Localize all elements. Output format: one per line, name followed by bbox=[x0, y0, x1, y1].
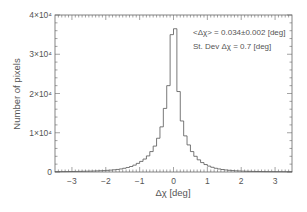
stdev-annotation: St. Dev Δχ = 0.7 [deg] bbox=[193, 42, 271, 51]
y-tick-label: 1×10⁴ bbox=[29, 128, 52, 138]
x-tick-label: −3 bbox=[67, 176, 77, 186]
y-tick-label: 3×10⁴ bbox=[29, 49, 52, 59]
x-tick-label: 0 bbox=[171, 176, 176, 186]
plot-frame bbox=[55, 15, 292, 172]
x-tick-label: 2 bbox=[239, 176, 244, 186]
y-tick-label: 2×10⁴ bbox=[29, 89, 52, 99]
histogram-chart: −3−2−10123 01×10⁴2×10⁴3×10⁴4×10⁴ Δχ [deg… bbox=[0, 0, 307, 212]
x-axis-title: Δχ [deg] bbox=[155, 187, 190, 198]
axis-ticks bbox=[55, 15, 292, 172]
x-tick-label: 3 bbox=[273, 176, 278, 186]
y-tick-label: 0 bbox=[47, 167, 52, 177]
x-tick-label: 1 bbox=[205, 176, 210, 186]
x-axis-tick-labels: −3−2−10123 bbox=[67, 176, 278, 186]
x-tick-label: −2 bbox=[101, 176, 111, 186]
y-axis-title: Number of pixels bbox=[11, 58, 22, 130]
mean-annotation: <Δχ> = 0.034±0.002 [deg] bbox=[193, 28, 285, 37]
y-axis-tick-labels: 01×10⁴2×10⁴3×10⁴4×10⁴ bbox=[29, 10, 52, 177]
x-tick-label: −1 bbox=[135, 176, 145, 186]
y-tick-label: 4×10⁴ bbox=[29, 10, 52, 20]
